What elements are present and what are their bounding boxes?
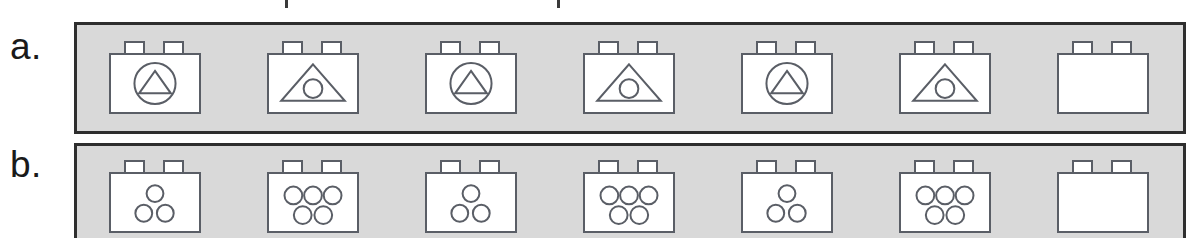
brick-body bbox=[899, 172, 991, 233]
brick-row-b-7[interactable] bbox=[1057, 160, 1149, 233]
brick-row-a-4[interactable] bbox=[583, 41, 675, 114]
sequence-row-a: a. bbox=[0, 14, 1195, 134]
blank-icon bbox=[1059, 174, 1147, 231]
brick-row-a-6[interactable] bbox=[899, 41, 991, 114]
top-text-fragment-1 bbox=[285, 0, 288, 8]
brick-body bbox=[583, 53, 675, 114]
triangle-in-circle-icon bbox=[111, 55, 199, 112]
brick-row-a-1[interactable] bbox=[109, 41, 201, 114]
brick-row-b-2[interactable] bbox=[267, 160, 359, 233]
brick-row-a-3[interactable] bbox=[425, 41, 517, 114]
brick-row-b-5[interactable] bbox=[741, 160, 833, 233]
brick-row-b-6[interactable] bbox=[899, 160, 991, 233]
brick-row-a-5[interactable] bbox=[741, 41, 833, 114]
brick-row-b-1[interactable] bbox=[109, 160, 201, 233]
brick-body bbox=[425, 53, 517, 114]
triangle-in-circle-icon bbox=[427, 55, 515, 112]
three-dots-icon bbox=[111, 174, 199, 231]
brick-body bbox=[109, 172, 201, 233]
row-b-panel bbox=[74, 143, 1186, 238]
brick-body bbox=[425, 172, 517, 233]
brick-body bbox=[109, 53, 201, 114]
circle-in-triangle-icon bbox=[901, 55, 989, 112]
three-dots-icon bbox=[427, 174, 515, 231]
brick-body bbox=[1057, 53, 1149, 114]
brick-body bbox=[267, 53, 359, 114]
row-a-label: a. bbox=[10, 28, 42, 65]
triangle-in-circle-icon bbox=[743, 55, 831, 112]
row-b-label: b. bbox=[10, 146, 42, 183]
top-text-fragment-2 bbox=[557, 0, 560, 8]
circle-in-triangle-icon bbox=[585, 55, 673, 112]
row-a-brick-strip bbox=[77, 25, 1183, 131]
row-b-brick-strip bbox=[77, 146, 1183, 238]
three-dots-icon bbox=[743, 174, 831, 231]
five-dots-icon bbox=[269, 174, 357, 231]
row-a-panel bbox=[74, 22, 1186, 134]
brick-body bbox=[267, 172, 359, 233]
brick-row-a-7[interactable] bbox=[1057, 41, 1149, 114]
brick-row-a-2[interactable] bbox=[267, 41, 359, 114]
brick-body bbox=[741, 53, 833, 114]
circle-in-triangle-icon bbox=[269, 55, 357, 112]
brick-body bbox=[741, 172, 833, 233]
sequence-row-b: b. bbox=[0, 136, 1195, 238]
brick-body bbox=[899, 53, 991, 114]
brick-body bbox=[1057, 172, 1149, 233]
brick-row-b-4[interactable] bbox=[583, 160, 675, 233]
blank-icon bbox=[1059, 55, 1147, 112]
five-dots-icon bbox=[585, 174, 673, 231]
five-dots-icon bbox=[901, 174, 989, 231]
brick-row-b-3[interactable] bbox=[425, 160, 517, 233]
brick-body bbox=[583, 172, 675, 233]
